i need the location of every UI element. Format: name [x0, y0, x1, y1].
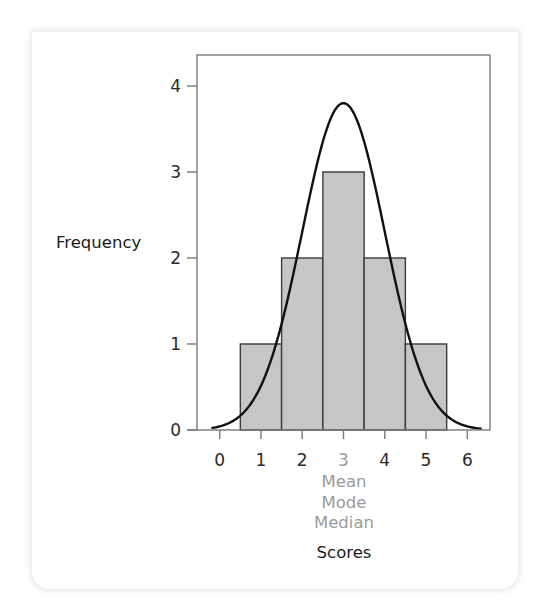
y-tick-label: 0 — [170, 420, 181, 440]
y-axis-title: Frequency — [56, 233, 141, 252]
x-tick-label: 6 — [462, 450, 473, 470]
x-axis: 0123456 — [214, 430, 472, 470]
histogram-chart: 01234 0123456 Frequency Mean Mode Median… — [0, 0, 540, 614]
annotation-mean: Mean — [322, 472, 367, 491]
y-axis: 01234 — [170, 76, 197, 440]
histogram-bar-4 — [364, 258, 405, 430]
x-axis-title: Scores — [317, 543, 372, 562]
x-tick-label: 0 — [214, 450, 225, 470]
x-tick-label-highlighted: 3 — [338, 450, 349, 470]
histogram-bars — [240, 172, 446, 430]
annotation-mode: Mode — [322, 493, 367, 512]
annotation-median: Median — [314, 513, 374, 532]
y-tick-label: 4 — [170, 76, 181, 96]
y-tick-label: 3 — [170, 162, 181, 182]
x-tick-label: 2 — [297, 450, 308, 470]
x-tick-label: 1 — [256, 450, 267, 470]
x-tick-label: 4 — [379, 450, 390, 470]
x-tick-label: 5 — [421, 450, 432, 470]
histogram-bar-3 — [323, 172, 364, 430]
histogram-bar-2 — [282, 258, 323, 430]
y-tick-label: 1 — [170, 334, 181, 354]
y-tick-label: 2 — [170, 248, 181, 268]
